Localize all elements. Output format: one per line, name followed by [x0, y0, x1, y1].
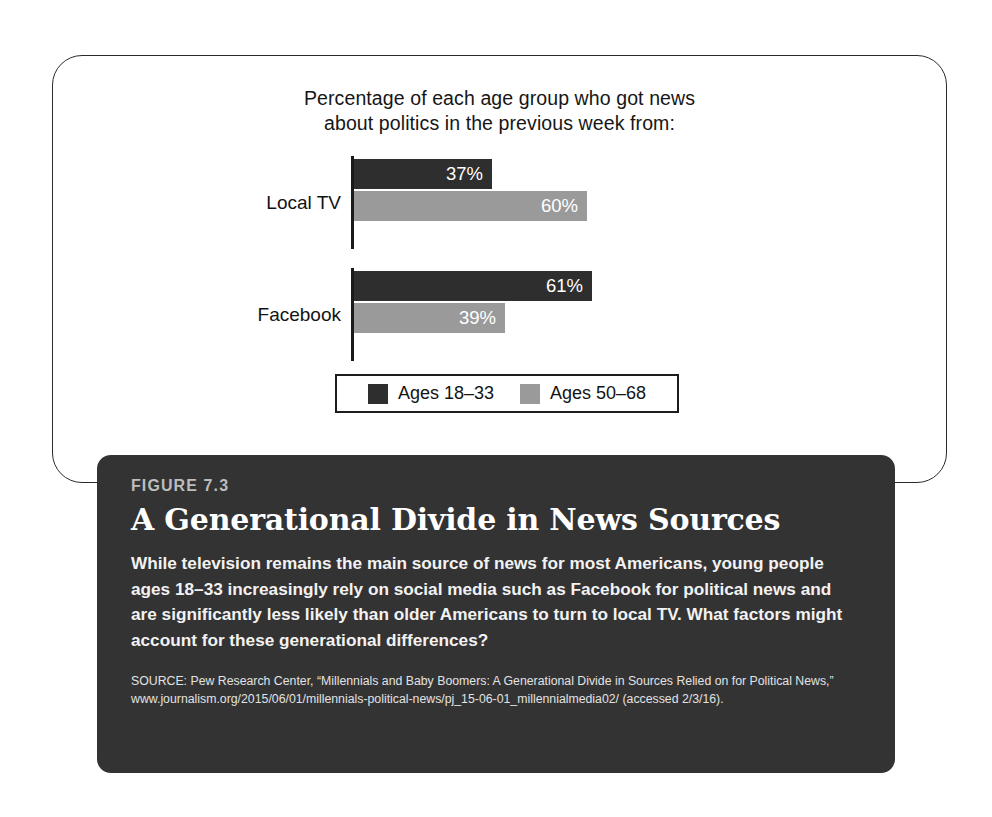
bar-value-local-tv-ages-50-68: 60%	[541, 197, 578, 216]
bar-facebook-ages-50-68: 39%	[354, 303, 505, 333]
chart-plot-area: Local TV 37% 60% Facebook 61% 39% Ages 1…	[53, 56, 946, 482]
legend-item-ages-18-33: Ages 18–33	[368, 383, 494, 404]
legend-swatch-icon-ages-18-33	[368, 384, 388, 404]
category-label-local-tv: Local TV	[63, 192, 341, 214]
chart-legend: Ages 18–33 Ages 50–68	[335, 374, 679, 413]
legend-item-ages-50-68: Ages 50–68	[520, 383, 646, 404]
category-label-facebook: Facebook	[63, 304, 341, 326]
figure-chart-card: Percentage of each age group who got new…	[52, 55, 947, 483]
figure-source-note: SOURCE: Pew Research Center, “Millennial…	[131, 673, 837, 708]
figure-number: FIGURE 7.3	[131, 477, 861, 495]
bar-value-local-tv-ages-18-33: 37%	[446, 165, 483, 184]
figure-title: A Generational Divide in News Sources	[131, 502, 861, 537]
figure-description: While television remains the main source…	[131, 551, 849, 653]
legend-swatch-icon-ages-50-68	[520, 384, 540, 404]
legend-label-ages-18-33: Ages 18–33	[398, 383, 494, 404]
figure-caption-panel: FIGURE 7.3 A Generational Divide in News…	[97, 455, 895, 773]
bar-value-facebook-ages-50-68: 39%	[459, 309, 496, 328]
legend-label-ages-50-68: Ages 50–68	[550, 383, 646, 404]
bar-local-tv-ages-18-33: 37%	[354, 159, 492, 189]
bar-local-tv-ages-50-68: 60%	[354, 191, 587, 221]
bar-value-facebook-ages-18-33: 61%	[546, 277, 583, 296]
bar-facebook-ages-18-33: 61%	[354, 271, 592, 301]
